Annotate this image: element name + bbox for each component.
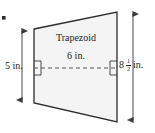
mixed-fraction: 1 2	[126, 58, 131, 72]
right-measure-unit: in.	[133, 60, 143, 70]
shape-name-label: Trapezoid	[43, 33, 109, 43]
fraction-numerator: 1	[126, 58, 131, 64]
trapezoid-figure: Trapezoid 6 in. 5 in. 8 1 2 in.	[0, 0, 155, 133]
bullet-mark	[2, 16, 6, 20]
right-measure-whole-number: 8	[119, 60, 124, 70]
top-measure-label: 6 in.	[52, 51, 100, 61]
left-measure-label: 5 in.	[5, 61, 23, 71]
fraction-denominator: 2	[126, 66, 131, 72]
trapezoid-shape	[34, 12, 117, 122]
right-measure-label: 8 1 2 in.	[119, 58, 143, 72]
